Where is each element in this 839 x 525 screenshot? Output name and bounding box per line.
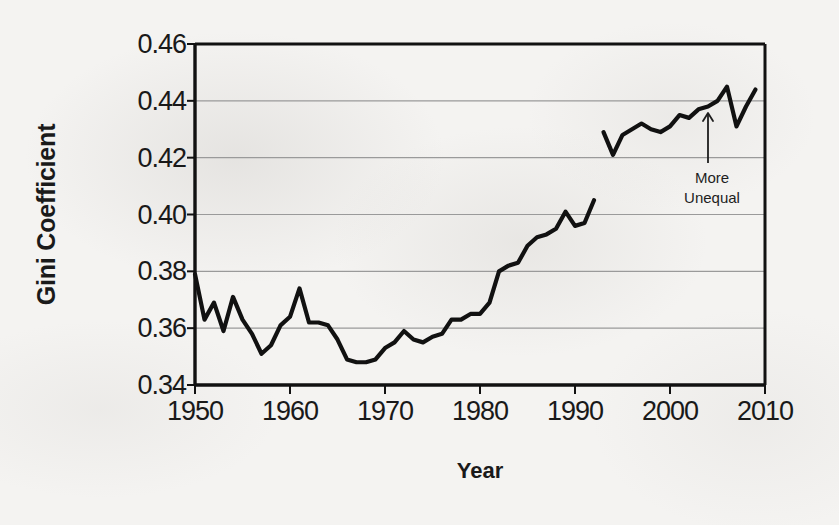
- x-tick-label: 2010: [705, 396, 825, 427]
- annotation-more-unequal: More Unequal: [652, 168, 772, 208]
- annotation-line-2: Unequal: [652, 188, 772, 208]
- gini-coefficient-line-chart: Gini Coefficient Year 0.340.360.380.400.…: [0, 0, 839, 525]
- annotation-line-1: More: [652, 168, 772, 188]
- x-axis-tick-labels: 1950196019701980199020002010: [0, 0, 839, 525]
